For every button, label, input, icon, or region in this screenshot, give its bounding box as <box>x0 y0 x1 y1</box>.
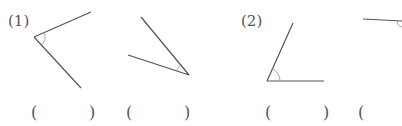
angle-1b <box>128 17 189 75</box>
angle-2a <box>267 23 324 81</box>
answer-1a-close: ) <box>89 105 95 121</box>
answer-2a-open: ( <box>265 105 271 121</box>
angle-figures <box>0 0 402 126</box>
answer-2a-close: ) <box>323 105 329 121</box>
angle-1a <box>34 12 91 88</box>
angle-2b-cropped <box>363 19 402 27</box>
answer-2b-open: ( <box>358 105 364 121</box>
answer-1b-open: ( <box>126 105 132 121</box>
answer-1a-open: ( <box>31 105 37 121</box>
answer-1b-close: ) <box>184 105 190 121</box>
